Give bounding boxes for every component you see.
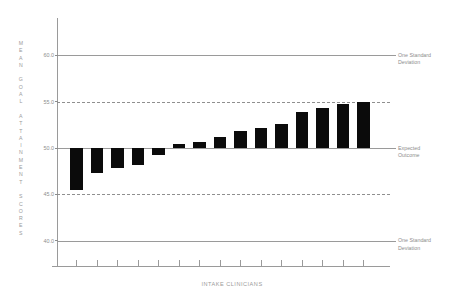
x-tick-mark <box>138 260 139 266</box>
bar <box>337 104 350 148</box>
y-axis-title-letter: A <box>19 55 23 62</box>
annotation-label: ExpectedOutcome <box>398 145 462 160</box>
bar <box>357 102 370 148</box>
y-tick-label: 60.0 <box>44 52 58 58</box>
y-axis-title-letter: A <box>19 135 23 142</box>
x-tick-mark <box>261 260 262 266</box>
y-axis-title-letter: G <box>19 76 23 83</box>
y-axis-title-letter: T <box>19 179 22 186</box>
annotation-line-1: One Standard <box>398 52 431 58</box>
annotation-line-2: Deviation <box>398 245 462 252</box>
x-tick-mark <box>363 260 364 266</box>
y-axis-title-letter: M <box>19 157 24 164</box>
y-axis-title-letter: O <box>19 84 23 91</box>
y-axis-title-letter: R <box>19 215 23 222</box>
annotation-line-2: Deviation <box>398 59 462 66</box>
y-axis-title-letter: T <box>19 120 22 127</box>
bar <box>234 131 247 148</box>
x-tick-mark <box>199 260 200 266</box>
y-axis-title-letter: E <box>19 222 23 229</box>
x-tick-mark <box>97 260 98 266</box>
y-axis-title-letter: L <box>19 98 22 105</box>
y-axis-title-letter: I <box>20 142 22 149</box>
annotation-line-1: Expected <box>398 145 420 151</box>
y-axis-title-letter: N <box>19 62 23 69</box>
x-tick-mark <box>322 260 323 266</box>
bar <box>275 124 288 148</box>
bar <box>91 148 104 173</box>
y-tick-label: 40.0 <box>44 238 58 244</box>
chart-figure: MEANGOALATTAINMENTSCORES 60.055.050.045.… <box>0 0 464 301</box>
x-tick-mark <box>220 260 221 266</box>
x-tick-mark <box>343 260 344 266</box>
y-axis-title-letter: T <box>19 128 22 135</box>
y-axis-title-letter: M <box>19 40 24 47</box>
x-tick-mark <box>117 260 118 266</box>
y-axis-title-letter: S <box>19 230 23 237</box>
annotation-label: One StandardDeviation <box>398 52 462 67</box>
bar <box>70 148 83 190</box>
y-axis-title: MEANGOALATTAINMENTSCORES <box>14 40 28 255</box>
annotation-leader-line <box>390 148 396 149</box>
annotation-label: One StandardDeviation <box>398 237 462 252</box>
y-axis-title-letter: A <box>19 113 23 120</box>
x-axis-title: INTAKE CLINICIANS <box>0 281 464 287</box>
bar <box>152 148 165 155</box>
y-axis-title-letter: A <box>19 91 23 98</box>
bar <box>132 148 145 165</box>
bar-series <box>57 18 390 266</box>
x-tick-mark <box>302 260 303 266</box>
y-tick-label: 55.0 <box>44 99 58 105</box>
x-axis-ticks <box>57 260 390 267</box>
x-tick-mark <box>158 260 159 266</box>
bar <box>316 108 329 148</box>
bar <box>214 137 227 148</box>
y-axis-title-letter: O <box>19 208 23 215</box>
annotation-line-1: One Standard <box>398 237 431 243</box>
x-tick-mark <box>179 260 180 266</box>
bar <box>173 144 186 148</box>
annotation-leader-line <box>390 241 396 242</box>
annotation-line-2: Outcome <box>398 152 462 159</box>
bar <box>193 142 206 149</box>
x-tick-mark <box>240 260 241 266</box>
y-axis-title-letter: E <box>19 47 23 54</box>
y-axis-title-letter: N <box>19 171 23 178</box>
y-tick-label: 45.0 <box>44 191 58 197</box>
y-axis-title-letter: E <box>19 164 23 171</box>
bar <box>255 128 268 148</box>
y-axis-title-letter: C <box>19 201 23 208</box>
y-tick-label: 50.0 <box>44 145 58 151</box>
bar <box>111 148 124 168</box>
y-axis-title-letter: N <box>19 149 23 156</box>
bar <box>296 112 309 148</box>
y-axis-title-letter: S <box>19 193 23 200</box>
annotation-leader-line <box>390 55 396 56</box>
x-tick-mark <box>281 260 282 266</box>
x-tick-mark <box>76 260 77 266</box>
